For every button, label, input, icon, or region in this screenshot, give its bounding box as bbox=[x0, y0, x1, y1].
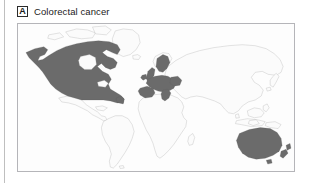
region-southeast-asia bbox=[247, 108, 264, 118]
region-ireland bbox=[141, 74, 147, 80]
region-north-america-highlight bbox=[26, 41, 124, 103]
world-map-frame bbox=[17, 23, 295, 172]
region-japan bbox=[270, 73, 279, 87]
region-eurasia bbox=[165, 45, 283, 114]
region-new-zealand-north-highlight bbox=[286, 143, 291, 150]
region-caribbean bbox=[95, 106, 107, 111]
region-sri-lanka bbox=[235, 114, 239, 118]
region-philippines bbox=[263, 104, 269, 112]
region-africa bbox=[138, 94, 187, 158]
region-tasmania-highlight bbox=[266, 159, 272, 164]
region-iberia-highlight bbox=[138, 86, 155, 98]
region-south-america bbox=[101, 116, 134, 168]
region-falklands bbox=[119, 166, 124, 169]
panel-letter-badge: A bbox=[17, 6, 28, 17]
region-new-zealand-south-highlight bbox=[280, 149, 288, 158]
region-arctic-islands-3 bbox=[48, 33, 64, 40]
region-arctic-islands bbox=[66, 29, 96, 39]
region-arctic-islands-2 bbox=[92, 26, 111, 35]
region-iceland bbox=[133, 55, 141, 60]
panel-title: Colorectal cancer bbox=[34, 6, 110, 17]
figure-panel-a: A Colorectal cancer bbox=[0, 0, 317, 183]
region-new-guinea bbox=[265, 122, 281, 129]
panel-caption: A Colorectal cancer bbox=[17, 5, 110, 18]
region-japan-south bbox=[266, 87, 271, 91]
world-map-svg bbox=[18, 24, 294, 171]
region-madagascar bbox=[188, 134, 195, 146]
region-australia-highlight bbox=[236, 128, 282, 160]
